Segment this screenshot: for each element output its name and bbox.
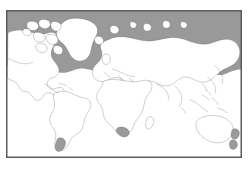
new-zealand-south-island	[229, 140, 237, 150]
iceland	[95, 36, 104, 44]
british-isles	[102, 54, 110, 64]
island-victoria-north	[39, 19, 51, 28]
map-frame	[6, 10, 242, 158]
svalbard	[110, 25, 119, 33]
severnaya-zemlya	[163, 21, 171, 29]
world-map-svg	[7, 11, 241, 157]
distribution-map-figure	[0, 0, 249, 169]
novaya-zemlya	[143, 24, 151, 32]
